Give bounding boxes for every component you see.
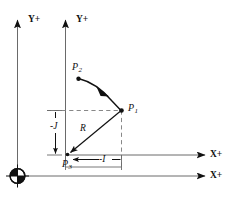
point-p1-label: P1 bbox=[128, 103, 138, 113]
i-offset-label: -I bbox=[99, 155, 105, 165]
radius-label: R bbox=[80, 124, 86, 134]
radius-vector-arrow bbox=[71, 112, 121, 153]
machine-axis-group bbox=[18, 20, 206, 176]
interpolation-arc-path bbox=[79, 79, 122, 111]
machine-x-axis-label: X+ bbox=[210, 171, 222, 181]
i-dimension-group bbox=[66, 155, 122, 170]
diagram-canvas: Y+ Y+ X+ X+ P2 P1 P3 -J -I R bbox=[0, 0, 237, 197]
point-p3-label: P3 bbox=[62, 159, 72, 169]
work-y-axis-label: Y+ bbox=[76, 15, 88, 25]
point-p1-subscript: 1 bbox=[134, 107, 138, 115]
machine-y-axis-label: Y+ bbox=[28, 15, 40, 25]
point-p1-marker bbox=[119, 108, 124, 113]
work-axis-group bbox=[66, 20, 206, 162]
j-offset-label: -J bbox=[50, 122, 57, 132]
diagram-vector-layer bbox=[0, 0, 237, 197]
machine-origin-datum bbox=[6, 165, 29, 188]
j-dimension-group bbox=[47, 111, 62, 156]
point-p2-label: P2 bbox=[72, 62, 82, 72]
point-p3-marker bbox=[66, 153, 70, 157]
work-x-axis-label: X+ bbox=[210, 150, 222, 160]
point-p2-subscript: 2 bbox=[78, 66, 82, 74]
point-p3-subscript: 3 bbox=[68, 163, 72, 171]
point-p2-marker bbox=[76, 77, 80, 81]
